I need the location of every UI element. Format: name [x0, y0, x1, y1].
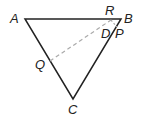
- label-d: D: [101, 26, 110, 41]
- label-a: A: [9, 11, 19, 26]
- label-p: P: [115, 26, 124, 41]
- label-b: B: [124, 11, 133, 26]
- label-r: R: [105, 3, 114, 18]
- label-q: Q: [35, 57, 45, 72]
- label-c: C: [68, 102, 78, 117]
- triangle-diagram: A R B D P Q C: [0, 0, 145, 122]
